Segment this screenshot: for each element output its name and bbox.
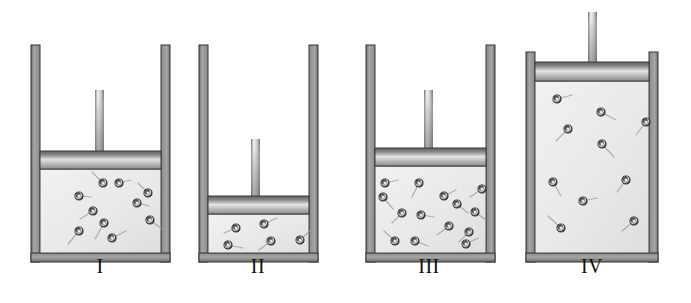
cylinder-label-1: I	[70, 255, 130, 278]
gas-molecule-core	[414, 240, 417, 243]
gas-molecule-core	[136, 202, 139, 205]
piston-head	[208, 196, 309, 214]
gas-molecule-core	[235, 227, 238, 230]
cylinder-label-3: III	[399, 255, 459, 278]
gas-molecule-core	[102, 182, 105, 185]
gas-molecule-core	[465, 243, 468, 246]
gas-molecule-core	[382, 196, 385, 199]
piston-rod-shade	[251, 139, 260, 198]
gas-molecule-core	[456, 203, 459, 206]
cylinder-wall-left	[199, 45, 208, 262]
gas-molecule-core	[625, 179, 628, 182]
piston-head	[375, 148, 486, 166]
cylinder-4	[526, 12, 658, 262]
gas-molecule-core	[556, 98, 559, 101]
cylinder-label-2: II	[228, 255, 288, 278]
gas-molecule-core	[601, 143, 604, 146]
gas-molecule-core	[270, 240, 273, 243]
cylinder-3	[366, 45, 495, 262]
gas-molecule-core	[78, 230, 81, 233]
gas-molecule-core	[111, 237, 114, 240]
gas-chamber	[208, 214, 309, 253]
gas-molecule-core	[633, 220, 636, 223]
piston-rod-shade	[424, 90, 433, 150]
gas-molecule-core	[299, 239, 302, 242]
gas-chamber	[535, 81, 649, 253]
gas-molecule-core	[474, 211, 477, 214]
cylinder-wall-left	[526, 52, 535, 262]
cylinder-wall-right	[649, 52, 658, 262]
gas-molecule-core	[443, 195, 446, 198]
piston-rod-shade	[95, 90, 104, 153]
gas-molecule-core	[394, 240, 397, 243]
cylinders-layer	[31, 12, 658, 262]
gas-molecule-core	[552, 181, 555, 184]
gas-molecule-core	[468, 231, 471, 234]
gas-molecule-core	[560, 227, 563, 230]
gas-molecule-core	[227, 244, 230, 247]
cylinder-2	[199, 45, 318, 262]
gas-molecule-core	[118, 182, 121, 185]
gas-molecule-core	[263, 223, 266, 226]
gas-molecule-core	[582, 200, 585, 203]
piston-cylinder-figure: IIIIIIIV	[0, 0, 691, 303]
cylinder-wall-right	[309, 45, 318, 262]
piston-rod-shade	[588, 12, 597, 64]
gas-molecule-core	[384, 182, 387, 185]
gas-molecule-core	[103, 222, 106, 225]
gas-molecule-core	[420, 214, 423, 217]
gas-molecule-core	[481, 188, 484, 191]
gas-molecule-core	[401, 212, 404, 215]
gas-molecule-core	[600, 111, 603, 114]
cylinder-wall-left	[366, 45, 375, 262]
gas-molecule-core	[418, 182, 421, 185]
cylinder-wall-left	[31, 45, 40, 262]
gas-molecule-core	[92, 210, 95, 213]
gas-molecule-core	[147, 192, 150, 195]
cylinder-wall-right	[486, 45, 495, 262]
gas-molecule-core	[567, 128, 570, 131]
cylinder-label-4: IV	[562, 255, 622, 278]
gas-molecule-core	[149, 219, 152, 222]
piston-head	[40, 151, 161, 169]
cylinder-1	[31, 45, 170, 262]
gas-molecule-core	[645, 121, 648, 124]
piston-head	[535, 62, 649, 81]
gas-molecule-core	[448, 225, 451, 228]
gas-molecule-core	[78, 195, 81, 198]
